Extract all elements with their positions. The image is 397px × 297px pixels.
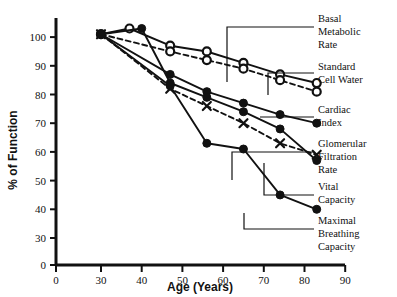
y-tick-label: 30 xyxy=(35,232,47,244)
y-tick-label: 40 xyxy=(35,203,47,215)
data-point xyxy=(313,205,321,213)
x-tick-label: 70 xyxy=(258,274,270,286)
legend-label-line: Rate xyxy=(318,39,338,50)
data-point xyxy=(97,30,105,38)
x-tick-label: 80 xyxy=(299,274,311,286)
data-point xyxy=(203,56,211,64)
legend-label-line: Basal xyxy=(318,13,341,24)
data-point xyxy=(239,99,247,107)
x-tick-label: 40 xyxy=(136,274,148,286)
y-tick-label: 100 xyxy=(30,31,47,43)
chart-canvas: 030405060708090100 030405060708090 Age (… xyxy=(0,0,397,297)
y-axis-title: % of Function xyxy=(6,110,20,189)
legend-label-line: Standard xyxy=(318,61,356,72)
y-tick-label: 80 xyxy=(35,89,47,101)
legend-label-line: Cardiac xyxy=(318,104,351,115)
y-tick-label: 90 xyxy=(35,60,47,72)
data-point xyxy=(203,139,211,147)
chart-figure: 030405060708090100 030405060708090 Age (… xyxy=(0,0,397,297)
data-point xyxy=(276,76,284,84)
data-point xyxy=(166,47,174,55)
y-tick-label: 0 xyxy=(41,259,47,271)
legend-label-line: Capacity xyxy=(318,241,356,252)
legend-label-line: Vital xyxy=(318,181,338,192)
data-point xyxy=(239,108,247,116)
x-tick-label: 90 xyxy=(340,274,352,286)
y-tick-label: 60 xyxy=(35,146,47,158)
legend-label-line: Glomerular xyxy=(318,138,367,149)
legend-label-line: Metabolic xyxy=(318,26,361,37)
y-tick-label: 70 xyxy=(35,117,47,129)
legend-label-line: Cell Water xyxy=(318,74,363,85)
data-point xyxy=(276,125,284,133)
legend-label-line: Capacity xyxy=(318,194,356,205)
legend-label-line: Filtration xyxy=(318,151,358,162)
data-point xyxy=(203,47,211,55)
data-point xyxy=(203,93,211,101)
y-tick-label: 50 xyxy=(35,175,47,187)
x-axis-title: Age (Years) xyxy=(167,280,233,294)
x-tick-label: 0 xyxy=(53,274,59,286)
data-point xyxy=(239,65,247,73)
x-tick-label: 30 xyxy=(96,274,108,286)
data-point xyxy=(313,88,321,96)
legend-label-line: Breathing xyxy=(318,228,360,239)
data-point xyxy=(138,24,146,32)
legend-label-line: Index xyxy=(318,117,343,128)
legend-label-line: Maximal xyxy=(318,215,356,226)
legend-item-5: MaximalBreathingCapacity xyxy=(318,215,360,252)
legend-label-line: Rate xyxy=(318,164,338,175)
data-point xyxy=(166,82,174,90)
